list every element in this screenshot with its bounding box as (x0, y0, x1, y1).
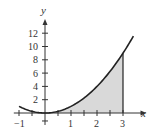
y-tick-label: 4 (33, 81, 38, 92)
x-tick-label: 2 (94, 118, 99, 129)
shaded-area (45, 53, 123, 113)
y-tick-labels: 2 4 6 8 10 12 (28, 28, 38, 105)
y-tick-label: 6 (33, 68, 38, 79)
x-tick-labels: −1 1 2 3 (14, 118, 125, 129)
y-axis-label: y (40, 4, 46, 16)
chart-canvas: x y −1 1 2 3 2 4 6 8 10 12 (0, 0, 151, 140)
x-tick-label: 3 (120, 118, 125, 129)
x-axis-label: x (140, 107, 146, 119)
y-tick-label: 10 (28, 41, 38, 52)
y-tick-label: 12 (28, 28, 38, 39)
y-tick-label: 2 (33, 94, 38, 105)
y-tick-label: 8 (33, 54, 38, 65)
y-axis-arrow-icon (43, 19, 48, 25)
x-tick-label: 1 (68, 118, 73, 129)
x-tick-label: −1 (14, 118, 25, 129)
